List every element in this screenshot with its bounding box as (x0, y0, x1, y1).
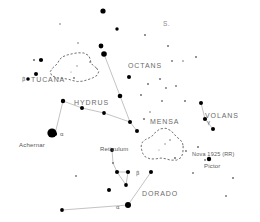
star-point (115, 27, 118, 30)
star-point (144, 34, 146, 36)
nebula-core-dot (158, 149, 159, 150)
star-point (53, 132, 57, 136)
constellation-label: MENSA (150, 118, 179, 125)
star-point (195, 56, 197, 58)
star-point (128, 120, 132, 124)
star-point (149, 170, 153, 174)
constellation-label: HYDRUS (74, 99, 109, 106)
star-point (75, 175, 77, 177)
constellation-line (104, 54, 130, 122)
star-label: Reticulum (100, 146, 128, 152)
greek-designation-label: β (22, 77, 26, 83)
greek-designation-label: α (116, 205, 120, 211)
star-point (197, 146, 199, 148)
nebula-core-dot (76, 65, 77, 66)
star-point (61, 99, 65, 103)
star-point (225, 195, 227, 197)
star-point (184, 100, 186, 102)
star-label: Achernar (19, 142, 45, 148)
star-point (147, 83, 149, 85)
star-point (171, 60, 173, 62)
star-point (175, 85, 177, 87)
star-point (89, 61, 91, 63)
star-point (33, 59, 35, 61)
star-point (99, 44, 104, 49)
object-label: Nova 1925 (RR) (192, 152, 235, 158)
star-point (107, 188, 111, 192)
star-label: Pictor (204, 163, 221, 169)
star-point (161, 100, 163, 102)
star-point (140, 94, 142, 96)
nebula-outline (141, 128, 183, 160)
south-pole-label: S. (163, 21, 170, 28)
greek-designation-label: γ (207, 120, 210, 126)
star-point (192, 172, 194, 174)
sky-canvas (0, 0, 260, 222)
star-point (135, 129, 139, 133)
constellation-line (117, 172, 126, 185)
constellation-label: OCTANS (128, 62, 162, 69)
constellation-line (128, 172, 151, 205)
star-point (77, 42, 79, 44)
star-point (211, 127, 215, 131)
star-point (80, 106, 84, 110)
star-point (185, 150, 187, 152)
star-point (118, 94, 123, 99)
star-point (149, 111, 151, 113)
constellation-line (55, 101, 63, 134)
constellation-line (104, 113, 130, 122)
star-point (127, 75, 131, 79)
star-point (199, 101, 203, 105)
star-point (182, 60, 184, 62)
constellation-label: TUCANA (31, 76, 65, 83)
star-point (73, 77, 75, 79)
star-point (165, 87, 167, 89)
constellation-label: VOLANS (205, 112, 239, 119)
star-point (124, 183, 128, 187)
star-point (59, 23, 61, 25)
nebula-outlines-group (50, 53, 183, 160)
star-point (174, 157, 176, 159)
star-point (232, 177, 234, 179)
star-point (159, 78, 161, 80)
star-point (143, 118, 145, 120)
star-point (26, 77, 30, 81)
star-point (100, 8, 105, 13)
greek-designation-label: β (136, 171, 140, 177)
nebula-core-dot (70, 71, 71, 72)
star-point (112, 162, 114, 164)
star-point (204, 159, 206, 161)
star-point (126, 170, 130, 174)
star-point (60, 208, 64, 212)
star-point (102, 111, 106, 115)
star-chart: S. OCTANSTUCANAHYDRUSMENSAVOLANSDORADOAc… (0, 0, 260, 222)
star-point (115, 170, 119, 174)
star-point (169, 139, 171, 141)
star-point (39, 58, 43, 62)
star-point (101, 51, 107, 57)
star-point (125, 202, 131, 208)
constellation-line (82, 108, 104, 113)
greek-designation-label: α (60, 132, 64, 138)
nebula-core-dot (164, 143, 165, 144)
star-point (167, 45, 169, 47)
constellation-label: DORADO (142, 190, 178, 197)
constellation-lines-group (55, 54, 213, 210)
